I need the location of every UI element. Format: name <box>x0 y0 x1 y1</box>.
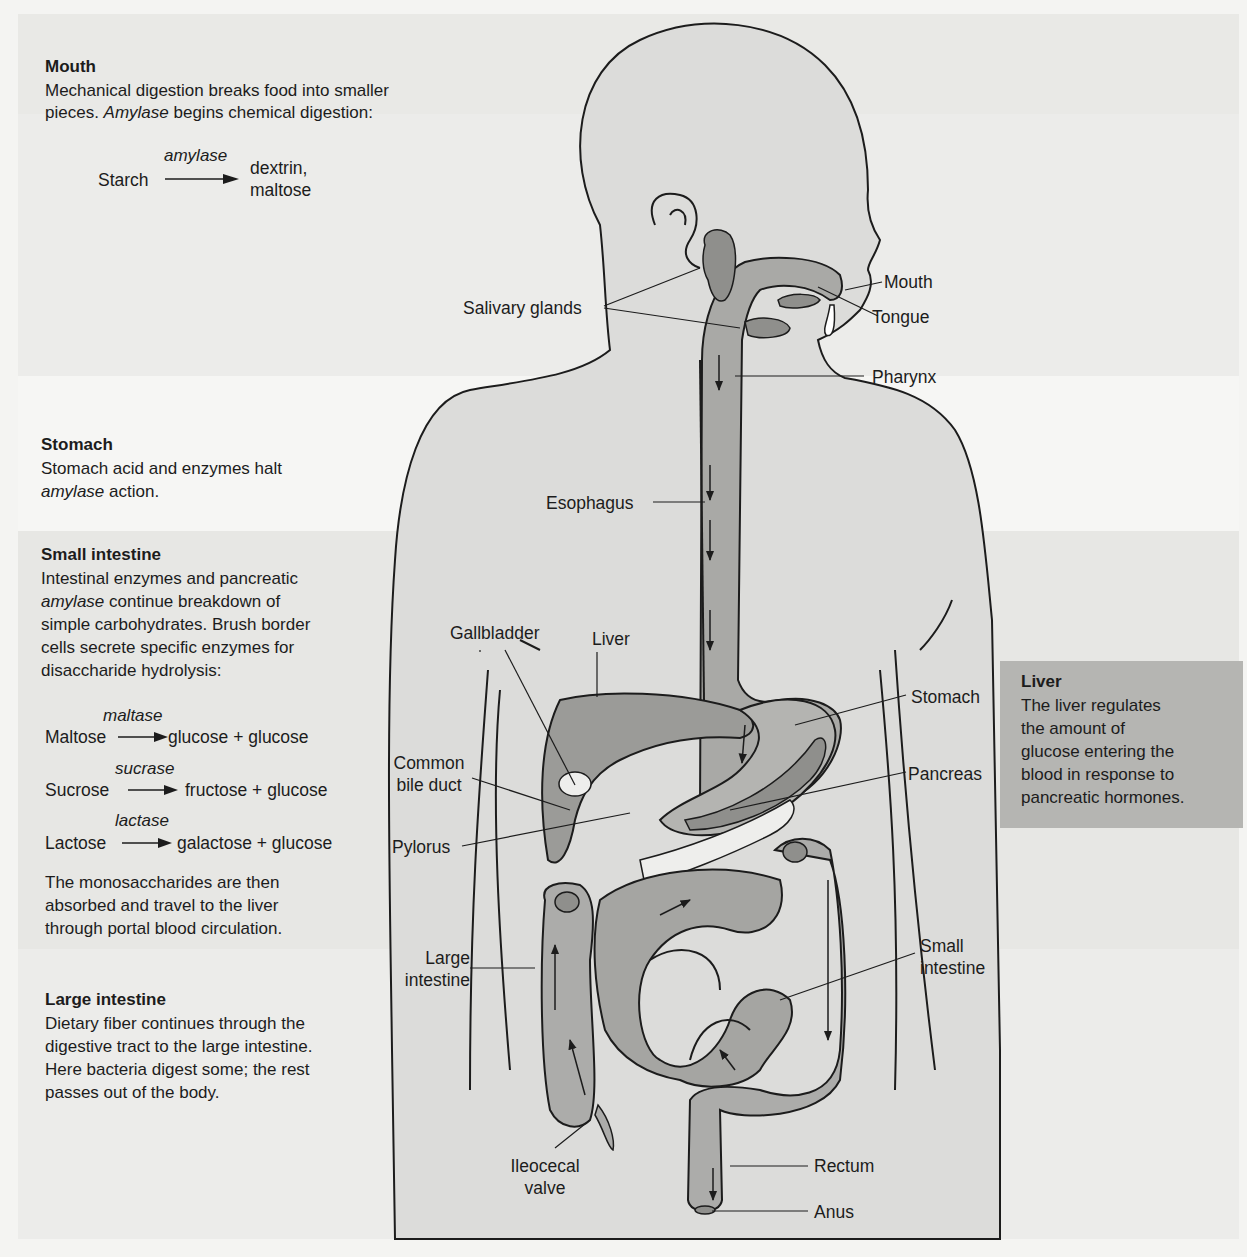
panel-text: absorbed and travel to the liver <box>45 895 278 916</box>
panel-text: simple carbohydrates. Brush border <box>41 614 310 635</box>
substrate-sucrose: Sucrose <box>45 780 109 801</box>
label-anus: Anus <box>814 1201 854 1223</box>
reaction-substrate: Starch <box>98 170 149 191</box>
label-liver: Liver <box>592 628 630 650</box>
enzyme-lactase: lactase <box>115 811 169 831</box>
label-small-intestine: Smallintestine <box>920 935 985 979</box>
enzyme-sucrase: sucrase <box>115 759 175 779</box>
panel-liver-title: Liver <box>1021 671 1062 692</box>
panel-small-intestine-title: Small intestine <box>41 544 161 565</box>
label-common-bile-duct: Commonbile duct <box>386 752 472 796</box>
reaction-arrow-icon <box>122 837 174 849</box>
label-rectum: Rectum <box>814 1155 874 1177</box>
reaction-arrow-icon <box>128 784 180 796</box>
panel-mouth-text: pieces. Amylase begins chemical digestio… <box>45 102 373 123</box>
panel-text: cells secrete specific enzymes for <box>41 637 294 658</box>
label-mouth: Mouth <box>884 271 933 293</box>
label-pancreas: Pancreas <box>908 763 982 785</box>
panel-text: passes out of the body. <box>45 1082 220 1103</box>
reaction-enzyme: amylase <box>164 146 227 166</box>
label-ileocecal-valve: Ileocecalvalve <box>505 1155 585 1199</box>
panel-mouth-text: Mechanical digestion breaks food into sm… <box>45 80 389 101</box>
panel-text: the amount of <box>1021 718 1125 739</box>
reaction-arrow-icon <box>118 731 170 743</box>
panel-large-intestine-title: Large intestine <box>45 989 166 1010</box>
reaction-product: dextrin, <box>250 158 307 179</box>
products: galactose + glucose <box>177 833 332 854</box>
label-stomach: Stomach <box>911 686 980 708</box>
panel-stomach-title: Stomach <box>41 434 113 455</box>
panel-text: amylase continue breakdown of <box>41 591 280 612</box>
reaction-arrow-icon <box>165 172 241 186</box>
panel-mouth-title: Mouth <box>45 56 96 77</box>
large-intestine <box>542 883 595 1126</box>
panel-text: The liver regulates <box>1021 695 1161 716</box>
label-pylorus: Pylorus <box>392 836 450 858</box>
panel-text: through portal blood circulation. <box>45 918 282 939</box>
panel-text: pancreatic hormones. <box>1021 787 1184 808</box>
label-gallbladder: Gallbladder <box>450 622 540 644</box>
panel-text: Intestinal enzymes and pancreatic <box>41 568 298 589</box>
anus <box>695 1206 715 1214</box>
panel-text: Here bacteria digest some; the rest <box>45 1059 310 1080</box>
panel-text: glucose entering the <box>1021 741 1174 762</box>
label-pharynx: Pharynx <box>872 366 936 388</box>
reaction-product: maltose <box>250 180 311 201</box>
panel-stomach-text: Stomach acid and enzymes halt <box>41 458 282 479</box>
panel-text: blood in response to <box>1021 764 1174 785</box>
panel-text: The monosaccharides are then <box>45 872 279 893</box>
substrate-lactose: Lactose <box>45 833 106 854</box>
panel-stomach-text: amylase action. <box>41 481 159 502</box>
label-salivary-glands: Salivary glands <box>463 297 582 319</box>
panel-text: Dietary fiber continues through the <box>45 1013 305 1034</box>
label-tongue: Tongue <box>872 306 929 328</box>
panel-text: digestive tract to the large intestine. <box>45 1036 312 1057</box>
products: glucose + glucose <box>168 727 309 748</box>
panel-text: disaccharide hydrolysis: <box>41 660 221 681</box>
enzyme-maltase: maltase <box>103 706 163 726</box>
label-esophagus: Esophagus <box>546 492 634 514</box>
substrate-maltose: Maltose <box>45 727 106 748</box>
products: fructose + glucose <box>185 780 328 801</box>
label-large-intestine: Largeintestine <box>392 947 470 991</box>
